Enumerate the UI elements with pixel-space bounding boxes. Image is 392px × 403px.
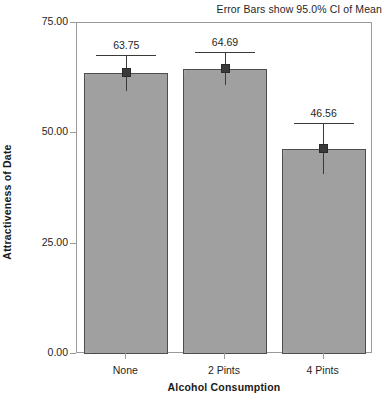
error-bar-cap-upper: [96, 55, 156, 56]
y-tick-label: 75.00: [22, 15, 68, 27]
bar: [84, 73, 168, 354]
bar-chart: Error Bars show 95.0% CI of Mean Attract…: [0, 0, 392, 403]
y-tick-label: 0.00: [22, 346, 68, 358]
mean-marker: [122, 68, 131, 77]
y-axis-title: Attractiveness of Date: [0, 0, 14, 403]
x-tick-label: None: [75, 364, 175, 376]
x-tick-label: 2 Pints: [174, 364, 274, 376]
y-tick-label: 50.00: [22, 125, 68, 137]
x-axis-title: Alcohol Consumption: [76, 381, 372, 393]
bar: [183, 69, 267, 354]
error-bar-cap-upper: [195, 52, 255, 53]
bar-value-label: 63.75: [86, 39, 166, 51]
y-axis-title-label: Attractiveness of Date: [1, 144, 13, 259]
y-tick-label: 25.00: [22, 236, 68, 248]
mean-marker: [319, 144, 328, 153]
x-tick-mark: [125, 353, 126, 359]
plot-area: 63.7564.6946.56: [77, 23, 371, 352]
x-tick-mark: [323, 353, 324, 359]
bar: [282, 149, 366, 354]
y-tick-mark: [70, 353, 76, 354]
plot-frame: 63.7564.6946.56: [76, 22, 372, 353]
mean-marker: [221, 64, 230, 73]
x-tick-mark: [224, 353, 225, 359]
error-bar-cap-upper: [294, 123, 354, 124]
bar-value-label: 64.69: [185, 36, 265, 48]
error-bar-annotation: Error Bars show 95.0% CI of Mean: [217, 3, 382, 15]
bar-value-label: 46.56: [284, 107, 364, 119]
x-tick-label: 4 Pints: [273, 364, 373, 376]
